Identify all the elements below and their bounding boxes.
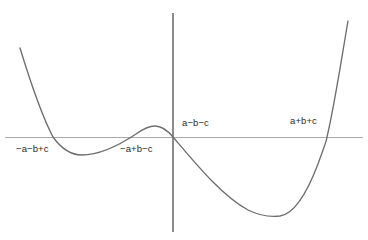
label-neg-a-neg-b-plus-c: −a−b+c — [16, 143, 49, 154]
quartic-curve-figure: −a−b+c −a+b−c a−b−c a+b+c — [0, 0, 368, 240]
label-a-plus-b-plus-c: a+b+c — [290, 115, 317, 126]
label-neg-a-plus-b-neg-c: −a+b−c — [120, 143, 153, 154]
label-a-neg-b-neg-c: a−b−c — [182, 117, 209, 128]
